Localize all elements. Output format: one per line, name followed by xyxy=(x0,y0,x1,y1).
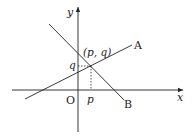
coordinate-diagram: y x O (p, q) q p A B xyxy=(0,0,196,140)
q-label: q xyxy=(69,59,76,71)
p-label: p xyxy=(87,93,94,105)
intersection-label: (p, q) xyxy=(83,46,111,58)
y-axis-label: y xyxy=(66,6,74,19)
x-axis-label: x xyxy=(177,91,184,104)
line-a xyxy=(25,45,132,99)
origin-label: O xyxy=(66,94,75,107)
line-b xyxy=(49,24,124,100)
line-a-label: A xyxy=(133,39,143,52)
line-b-label: B xyxy=(124,98,132,111)
